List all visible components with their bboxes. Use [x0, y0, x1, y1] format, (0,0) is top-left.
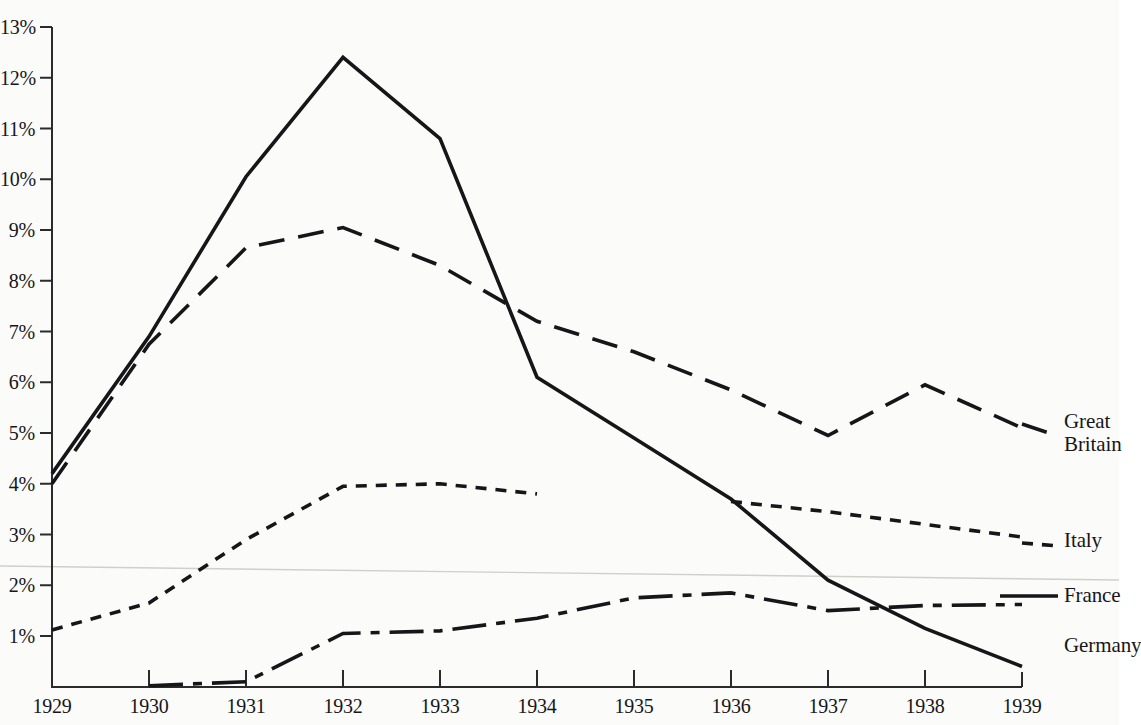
series-line-italy: [731, 502, 1022, 538]
x-axis-tick-label: 1938: [905, 695, 944, 718]
x-axis-tick-label: 1935: [614, 695, 653, 718]
y-axis-tick-label: 11%: [0, 117, 35, 140]
chart-axes: [52, 27, 1022, 687]
x-axis-tick-label: 1930: [129, 695, 168, 718]
y-axis-tick-label: 2%: [0, 574, 35, 597]
series-leader-italy: [1022, 543, 1058, 546]
y-axis-tick-label: 10%: [0, 168, 35, 191]
x-axis-tick-label: 1929: [32, 695, 71, 718]
series-leader-lines: [1000, 424, 1058, 596]
y-axis-tick-label: 13%: [0, 16, 35, 39]
series-layer: [52, 57, 1022, 685]
y-axis-ticks: [40, 27, 52, 636]
y-axis-tick-label: 6%: [0, 371, 35, 394]
x-axis-tick-label: 1932: [323, 695, 362, 718]
y-axis-tick-label: 12%: [0, 66, 35, 89]
y-axis-tick-label: 9%: [0, 219, 35, 242]
y-axis-tick-label: 5%: [0, 422, 35, 445]
series-line-italy: [52, 484, 537, 630]
x-axis-tick-label: 1931: [226, 695, 265, 718]
series-leader-great-britain: [1022, 424, 1058, 436]
series-label-italy: Italy: [1064, 529, 1102, 552]
y-axis-tick-label: 3%: [0, 523, 35, 546]
x-axis-tick-label: 1937: [808, 695, 847, 718]
x-axis-tick-label: 1939: [1002, 695, 1041, 718]
series-label-france: France: [1064, 584, 1121, 607]
x-axis-tick-label: 1933: [420, 695, 459, 718]
y-axis-tick-label: 8%: [0, 269, 35, 292]
series-line-germany: [149, 593, 1022, 686]
y-axis-tick-label: 4%: [0, 472, 35, 495]
series-line-france: [52, 57, 1022, 666]
y-axis-tick-label: 7%: [0, 320, 35, 343]
series-label-great-britain: Great Britain: [1064, 410, 1122, 455]
x-axis-tick-label: 1934: [517, 695, 556, 718]
y-axis-tick-label: 1%: [0, 625, 35, 648]
x-axis-tick-label: 1936: [711, 695, 750, 718]
series-label-germany: Germany: [1064, 634, 1141, 657]
series-line-great-britain: [52, 228, 1022, 484]
page-fold-artifact: [0, 566, 1119, 580]
